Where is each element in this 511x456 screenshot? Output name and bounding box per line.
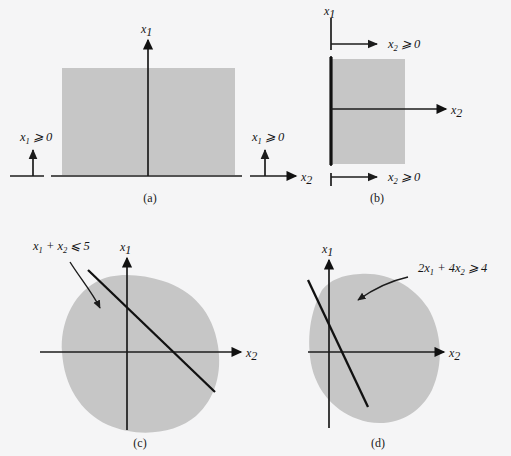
panel-d-vertical-axis-label: x1: [321, 242, 333, 259]
panel-b: x2 ⩾ 0 x2 ⩾ 0 x1 x2 (b): [323, 4, 462, 205]
panel-b-caption: (b): [370, 191, 384, 205]
panel-b-constraint-label-top: x2 ⩾ 0: [387, 37, 421, 53]
panel-b-vertical-axis-label: x1: [323, 4, 335, 21]
panel-d-caption: (d): [371, 436, 385, 450]
panel-c-constraint-label: x1 + x2 ⩽ 5: [32, 239, 90, 255]
panel-a-vertical-axis-label: x1: [140, 22, 152, 39]
panel-c-vertical-axis-label: x1: [119, 240, 131, 257]
panel-c-feasible-region: [62, 275, 219, 433]
panel-a: x1 ⩾ 0 x1 ⩾ 0 x1 x2 (a): [10, 22, 312, 205]
panel-c-horizontal-axis-label: x2: [245, 346, 257, 363]
panel-b-horizontal-axis-label: x2: [450, 103, 462, 120]
panel-d-horizontal-axis-label: x2: [448, 346, 460, 363]
panel-b-feasible-region: [331, 59, 405, 164]
panel-d: 2x1 + 4x2 ⩾ 4 x1 x2 (d): [308, 242, 487, 450]
panel-b-constraint-label-bottom: x2 ⩾ 0: [387, 170, 421, 186]
panel-d-constraint-label: 2x1 + 4x2 ⩾ 4: [418, 261, 487, 277]
panel-c: x1 + x2 ⩽ 5 x1 x2 (c): [32, 239, 257, 450]
panel-a-caption: (a): [143, 191, 156, 205]
figure-container: x1 ⩾ 0 x1 ⩾ 0 x1 x2 (a) x2 ⩾ 0: [0, 0, 511, 456]
panel-c-caption: (c): [133, 436, 146, 450]
figure-svg: x1 ⩾ 0 x1 ⩾ 0 x1 x2 (a) x2 ⩾ 0: [0, 0, 511, 456]
panel-a-constraint-label-right: x1 ⩾ 0: [251, 130, 285, 146]
panel-a-constraint-label-left: x1 ⩾ 0: [19, 130, 53, 146]
panel-a-horizontal-axis-label: x2: [300, 170, 312, 187]
